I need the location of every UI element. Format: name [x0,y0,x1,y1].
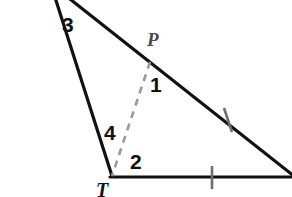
point-label-p: P [147,30,159,49]
geometry-canvas [0,0,292,197]
angle-label-3: 3 [62,14,74,35]
angle-label-1: 1 [150,74,162,95]
geometry-figure: 3 1 4 2 P T [0,0,292,197]
vertex-label-t: T [96,180,108,197]
segment-hypotenuse [56,0,292,176]
angle-label-2: 2 [130,151,142,172]
angle-label-4: 4 [104,122,116,143]
